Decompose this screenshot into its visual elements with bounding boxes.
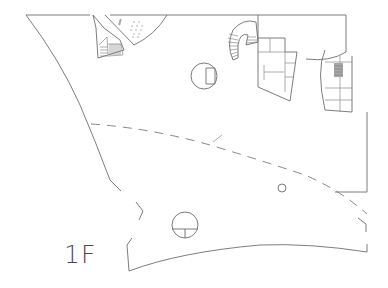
circular-room-upper: [191, 63, 217, 89]
floor-label: 1F: [64, 240, 96, 269]
roof-edge-dashed-line: [91, 124, 367, 214]
spiral-stair-center-icon: [228, 21, 258, 60]
dashed-kink: [213, 135, 222, 142]
service-core-center: [258, 15, 297, 101]
lower-left-wall: [127, 238, 132, 271]
auditorium-wedge: [105, 15, 167, 45]
right-small-wall: [358, 218, 366, 232]
right-lower-wall: [335, 112, 367, 192]
left-curved-wall: [26, 15, 121, 191]
floor-plan-drawing: [0, 0, 388, 288]
circular-room-lower: [172, 212, 198, 238]
lower-left-notch: [136, 202, 143, 220]
column-small: [278, 184, 286, 192]
bottom-curved-wall: [129, 245, 367, 271]
